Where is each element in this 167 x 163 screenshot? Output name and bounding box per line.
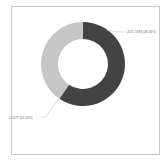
donut-chart-plot-area: 2021 1583 (48.46%) 0 1077 (51.54%) <box>0 0 167 163</box>
slice-label-2021: 2021 1583 (48.46%) <box>127 30 156 34</box>
leader-line-0 <box>41 98 59 117</box>
donut-chart-svg <box>0 0 167 163</box>
donut-slices <box>41 22 125 106</box>
slice-label-0: 0 1077 (51.54%) <box>9 116 33 120</box>
donut-slice-0[interactable] <box>41 22 83 99</box>
